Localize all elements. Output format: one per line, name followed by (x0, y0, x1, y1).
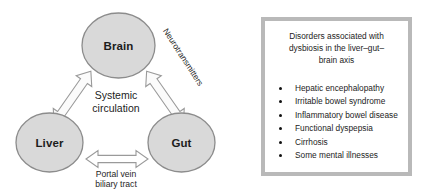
disorders-panel-inner: Disorders associated with dysbiosis in t… (265, 21, 408, 172)
panel-title-line3: brain axis (274, 54, 399, 66)
list-item-label: Irritable bowel syndrome (295, 96, 385, 106)
triangle-diagram: Brain Liver Gut Systemic circulation Neu… (0, 0, 230, 196)
node-label-gut: Gut (171, 137, 191, 149)
bullet-icon (279, 154, 282, 157)
edge-label-line2: biliary tract (95, 180, 137, 190)
list-item: Hepatic encephalopathy (278, 82, 401, 95)
list-item: Functional dyspepsia (278, 122, 401, 135)
edge-label-portal-vein-biliary-tract: Portal vein biliary tract (95, 170, 137, 190)
list-item: Cirrhosis (278, 136, 401, 149)
node-label-liver: Liver (36, 137, 64, 149)
bullet-icon (279, 87, 282, 90)
arrow-liver-gut (86, 151, 148, 168)
list-item-label: Hepatic encephalopathy (295, 83, 384, 93)
bullet-icon (279, 100, 282, 103)
bullet-icon (279, 114, 282, 117)
panel-title-line1: Disorders associated with (274, 30, 399, 42)
bullet-icon (279, 141, 282, 144)
list-item: Irritable bowel syndrome (278, 95, 401, 108)
list-item: Inflammatory bowel disease (278, 109, 401, 122)
disorders-panel-title: Disorders associated with dysbiosis in t… (274, 30, 399, 66)
center-label-line2: circulation (92, 102, 139, 115)
disorders-list: Hepatic encephalopathy Irritable bowel s… (272, 82, 401, 163)
list-item-label: Cirrhosis (295, 137, 328, 147)
figure-liver-gut-brain-axis: Brain Liver Gut Systemic circulation Neu… (0, 0, 425, 196)
list-item-label: Functional dyspepsia (295, 123, 373, 133)
disorders-panel: Disorders associated with dysbiosis in t… (261, 17, 412, 176)
center-label-line1: Systemic (92, 89, 139, 102)
bullet-icon (279, 127, 282, 130)
list-item-label: Some mental illnesses (295, 150, 378, 160)
list-item-label: Inflammatory bowel disease (295, 110, 398, 120)
panel-title-line2: dysbiosis in the liver–gut– (274, 42, 399, 54)
center-label-systemic-circulation: Systemic circulation (92, 89, 139, 115)
node-label-brain: Brain (104, 40, 134, 52)
list-item: Some mental illnesses (278, 149, 401, 162)
